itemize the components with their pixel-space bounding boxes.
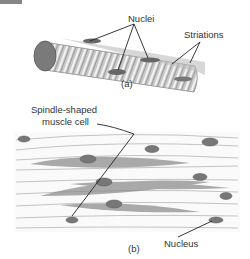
nucleus-4 [174, 77, 192, 82]
label-nuclei: Nuclei [128, 13, 154, 24]
fiber-cross-section [34, 41, 56, 71]
smooth-muscle-tissue [14, 132, 240, 232]
label-nucleus: Nucleus [164, 238, 198, 249]
nucleus-1 [83, 39, 101, 44]
caption-a: (a) [121, 78, 133, 89]
label-striations: Striations [184, 29, 224, 40]
label-spindle-line2: muscle cell [42, 116, 89, 127]
nucleus-3 [108, 69, 126, 75]
label-spindle-line1: Spindle-shaped [31, 104, 97, 115]
nucleus-2 [140, 58, 160, 63]
caption-b: (b) [128, 243, 140, 254]
